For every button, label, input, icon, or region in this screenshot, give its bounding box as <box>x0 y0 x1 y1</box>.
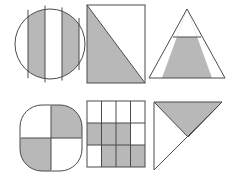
grid-cell-r3c2-shaded <box>102 145 117 167</box>
shape-circle-fourths <box>14 4 86 84</box>
grid-cell-r3c4-shaded <box>131 145 146 167</box>
right-triangle-svg <box>152 100 224 172</box>
shape-rect-diagonal <box>86 4 146 84</box>
rounded-square-svg <box>16 98 86 178</box>
shape-rounded-square <box>16 98 86 178</box>
shape-right-triangle <box>152 100 224 172</box>
shape-grid-four-by-three <box>86 100 146 168</box>
grid-cell-r2c1-shaded <box>87 123 102 145</box>
grid-cell-r3c3-shaded <box>116 145 131 167</box>
circle-strip-shaded-left <box>28 4 45 84</box>
triangle-trapezoid-svg <box>148 4 226 84</box>
rect-diagonal-svg <box>86 4 146 84</box>
triangle-unshaded-apex <box>177 9 197 37</box>
circle-fourths-svg <box>14 4 86 84</box>
quadrant-top-right-shaded <box>51 98 86 138</box>
quadrant-bottom-left-shaded <box>16 138 51 178</box>
grid-cell-r2c3-shaded <box>116 123 131 145</box>
grid-four-by-three-svg <box>86 100 146 168</box>
fraction-diagram-sheet <box>0 0 230 186</box>
grid-cell-r2c2-shaded <box>102 123 117 145</box>
right-triangle-shaded-half <box>154 102 222 137</box>
shape-triangle-trapezoid <box>148 4 226 84</box>
